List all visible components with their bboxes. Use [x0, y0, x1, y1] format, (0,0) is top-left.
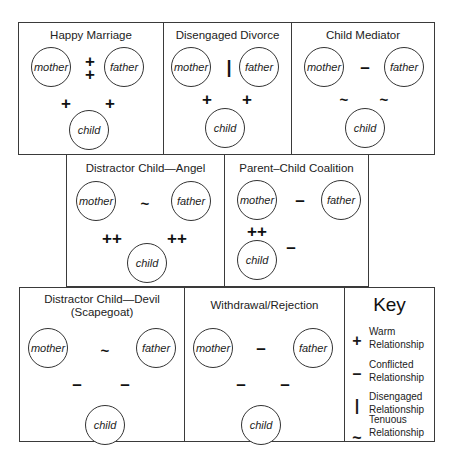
panel-parent-child-coalition: Parent–Child Coalition mother father chi…	[224, 154, 369, 287]
father-child-relation: ~	[369, 91, 399, 108]
child-node: child	[127, 243, 167, 283]
father-child-relation: ++	[162, 230, 192, 247]
mother-father-relation: |	[214, 59, 244, 76]
panel-title: Distractor Child—Angel	[67, 162, 224, 175]
key-item-warm: + WarmRelationship	[349, 325, 432, 357]
key-item-conflicted: – ConflictedRelationship	[349, 358, 432, 390]
child-node: child	[205, 108, 245, 148]
mother-node: mother	[193, 328, 233, 368]
mother-father-relation: –	[246, 340, 276, 357]
father-node: father	[321, 180, 361, 220]
mother-node: mother	[28, 328, 68, 368]
mother-father-relation: –	[350, 59, 380, 76]
father-node: father	[384, 47, 424, 87]
plus-icon: +	[349, 333, 365, 349]
key-title: Key	[345, 294, 434, 316]
mother-father-relation: ++	[75, 55, 105, 81]
minus-icon: –	[349, 366, 365, 382]
tilde-icon: ~	[349, 430, 365, 446]
panel-child-mediator: Child Mediator mother father child – ~ ~	[291, 22, 435, 155]
mother-child-relation: +	[51, 95, 81, 112]
child-node: child	[69, 110, 109, 150]
mother-node: mother	[304, 47, 344, 87]
child-node: child	[241, 405, 281, 445]
key-label: TenuousRelationship	[369, 413, 424, 439]
father-child-relation: –	[110, 376, 140, 393]
father-child-relation: +	[232, 91, 262, 108]
key-label: ConflictedRelationship	[369, 358, 424, 384]
mother-child-relation: –	[226, 376, 256, 393]
panel-title-line1: Distractor Child—Devil	[20, 293, 184, 306]
child-node: child	[237, 240, 277, 280]
mother-child-relation: +	[192, 91, 222, 108]
mother-father-relation: ~	[130, 195, 160, 212]
panel-distractor-devil: Distractor Child—Devil (Scapegoat) mothe…	[19, 287, 185, 442]
father-node: father	[104, 47, 144, 87]
panel-disengaged-divorce: Disengaged Divorce mother father child |…	[163, 22, 292, 155]
father-node: father	[293, 328, 333, 368]
child-node: child	[85, 405, 125, 445]
panel-withdrawal-rejection: Withdrawal/Rejection mother father child…	[184, 287, 345, 442]
mother-node: mother	[31, 47, 71, 87]
mother-child-relation: ~	[329, 91, 359, 108]
father-child-relation: +	[95, 95, 125, 112]
panel-happy-marriage: Happy Marriage mother father child ++ + …	[18, 22, 164, 155]
mother-node: mother	[76, 181, 116, 221]
key-label: WarmRelationship	[369, 325, 424, 351]
mother-node: mother	[237, 180, 277, 220]
panel-title: Withdrawal/Rejection	[185, 299, 344, 312]
father-child-relation: –	[276, 239, 306, 256]
panel-title: Disengaged Divorce	[164, 29, 291, 42]
panel-title-line2: (Scapegoat)	[20, 306, 184, 319]
panel-title: Child Mediator	[292, 29, 434, 42]
key-legend: Key + WarmRelationship – ConflictedRelat…	[344, 287, 435, 442]
father-child-relation: –	[270, 376, 300, 393]
panel-title: Happy Marriage	[19, 29, 163, 42]
bar-icon: |	[349, 398, 365, 414]
key-item-tenuous: ~ TenuousRelationship	[349, 422, 432, 442]
mother-child-relation: –	[62, 376, 92, 393]
panel-title: Parent–Child Coalition	[225, 162, 368, 175]
mother-child-relation: ++	[97, 230, 127, 247]
mother-child-relation: ++	[242, 223, 272, 240]
father-node: father	[171, 181, 211, 221]
father-node: father	[239, 47, 279, 87]
mother-father-relation: –	[285, 192, 315, 209]
panel-distractor-angel: Distractor Child—Angel mother father chi…	[66, 154, 225, 287]
child-node: child	[345, 108, 385, 148]
mother-node: mother	[171, 47, 211, 87]
mother-father-relation: ~	[90, 342, 120, 359]
father-node: father	[136, 328, 176, 368]
